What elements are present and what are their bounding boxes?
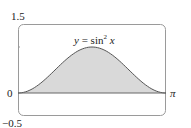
shaded-area [18,47,166,93]
y-min-label: −0.5 [2,118,22,128]
y-max-label: 1.5 [11,11,25,22]
equation-label: y = sin2 x [74,32,115,46]
x-max-label: π [170,88,176,99]
zero-label: 0 [7,88,13,99]
eq-mid: = sin [79,34,104,46]
eq-x: x [107,34,115,46]
chart-plot [0,0,191,128]
